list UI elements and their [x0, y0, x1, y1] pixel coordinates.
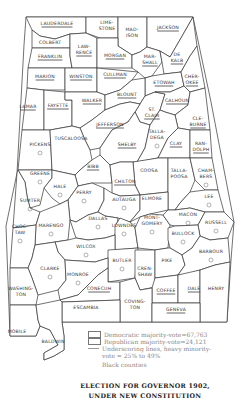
county-label-baldwin: BALDWIN [41, 339, 64, 344]
svg-text:CLAY: CLAY [170, 141, 182, 146]
svg-text:BUTLER: BUTLER [112, 258, 132, 263]
svg-text:BULLOCK: BULLOCK [172, 231, 195, 236]
svg-text:POOSA: POOSA [170, 174, 188, 179]
svg-text:FAYETTE: FAYETTE [48, 103, 69, 108]
svg-text:TAW: TAW [14, 230, 26, 235]
svg-text:TUSCALOOSA: TUSCALOOSA [53, 136, 88, 141]
legend: Democratic majority-vote=67,763 Republic… [88, 331, 243, 368]
map-title: ELECTION FOR GOVERNOR 1902, UNDER NEW CO… [60, 381, 230, 401]
svg-text:DALE: DALE [188, 286, 201, 291]
county-label-henry: HENRY [208, 286, 225, 291]
svg-text:DE: DE [174, 52, 181, 57]
svg-text:WILCOX: WILCOX [76, 244, 95, 249]
svg-text:PERRY: PERRY [76, 190, 92, 195]
svg-text:LEE: LEE [205, 194, 214, 199]
svg-text:TALLA-: TALLA- [148, 129, 166, 134]
svg-text:LAMAR: LAMAR [19, 104, 37, 109]
svg-text:PICKENS: PICKENS [30, 142, 51, 147]
svg-text:BERS: BERS [200, 174, 213, 179]
svg-text:SHAW: SHAW [138, 272, 153, 277]
svg-text:COLBERT: COLBERT [39, 40, 62, 45]
county-henry[interactable] [200, 262, 230, 322]
legend-label: vote = 25% to 49% [102, 352, 160, 359]
svg-text:CLE-: CLE- [192, 116, 203, 121]
svg-text:CLAIR: CLAIR [145, 113, 160, 118]
svg-text:LAW-: LAW- [78, 44, 91, 49]
svg-text:WASHING-: WASHING- [8, 286, 34, 291]
svg-text:MARION: MARION [35, 74, 55, 79]
svg-text:DEGA: DEGA [150, 135, 165, 140]
svg-text:MONT-: MONT- [144, 215, 160, 220]
svg-text:COOSA: COOSA [140, 168, 158, 173]
county-pickens[interactable] [18, 130, 52, 170]
county-escambia[interactable] [62, 300, 120, 322]
legend-label: Republican majority-vote=24,121 [104, 338, 207, 345]
underline-icon [88, 348, 99, 350]
county-label-escambia: ESCAMBIA [73, 305, 99, 310]
svg-text:ST.: ST. [148, 107, 155, 112]
legend-box-icon [88, 338, 101, 345]
svg-text:CLARKE: CLARKE [40, 266, 59, 271]
svg-text:LIME-: LIME- [100, 20, 114, 25]
svg-text:MONROE: MONROE [67, 272, 89, 277]
county-baldwin[interactable] [36, 300, 64, 360]
svg-text:KALB: KALB [171, 58, 184, 63]
county-geneva[interactable] [152, 303, 200, 322]
svg-text:AUTAUGA: AUTAUGA [112, 197, 136, 202]
svg-text:CREN-: CREN- [137, 266, 153, 271]
svg-text:DOLPH: DOLPH [193, 147, 210, 152]
svg-text:PIKE: PIKE [162, 258, 173, 263]
title-line-1: ELECTION FOR GOVERNOR 1902, [60, 381, 230, 391]
svg-text:BALDWIN: BALDWIN [41, 339, 64, 344]
county-label-tuscaloosa: TUSCALOOSA [53, 136, 88, 141]
legend-item-underscoring: Underscoring lines, heavy minority- [88, 345, 243, 352]
legend-label: Underscoring lines, heavy minority- [102, 345, 211, 352]
county-label-talla: TALLA-POOSA [170, 168, 189, 179]
svg-text:BLOUNT: BLOUNT [117, 92, 137, 97]
svg-text:DALLAS: DALLAS [88, 216, 107, 221]
svg-text:CHOC-: CHOC- [12, 224, 28, 229]
svg-text:BARBOUR: BARBOUR [199, 249, 224, 254]
county-label-law: LAW-RENCE [76, 44, 93, 56]
title-line-2: UNDER NEW CONSTITUTION [60, 391, 230, 401]
svg-text:ETOWAH: ETOWAH [153, 80, 174, 85]
svg-text:BURNE: BURNE [189, 122, 206, 127]
county-label-mar: MAR-SHALL [142, 54, 158, 66]
county-label-pike: PIKE [162, 258, 173, 263]
legend-item-democratic: Democratic majority-vote=67,763 [88, 331, 243, 338]
svg-text:CHAM-: CHAM- [198, 168, 215, 173]
svg-text:BIBB: BIBB [87, 164, 99, 169]
county-label-ran: RAN-DOLPH [193, 141, 210, 153]
svg-text:MACON: MACON [179, 212, 197, 217]
svg-text:OKEE: OKEE [185, 80, 198, 85]
svg-text:HALE: HALE [54, 184, 67, 189]
svg-text:SHELBY: SHELBY [118, 142, 137, 147]
county-marion[interactable] [27, 68, 65, 90]
svg-text:WINSTON: WINSTON [69, 74, 93, 79]
svg-text:MAD-: MAD- [125, 27, 138, 32]
svg-text:GREENE: GREENE [30, 171, 50, 176]
legend-item-black-counties: Black counties [88, 361, 243, 368]
county-label-cher: CHER-OKEE [184, 74, 199, 86]
svg-text:MOBILE: MOBILE [8, 329, 27, 334]
svg-text:SHALL: SHALL [142, 60, 158, 65]
svg-text:RENCE: RENCE [76, 50, 93, 55]
svg-text:ESCAMBIA: ESCAMBIA [73, 305, 99, 310]
county-label-mobile: MOBILE [8, 329, 27, 334]
county-butler[interactable] [108, 248, 138, 282]
county-russell[interactable] [198, 212, 234, 240]
svg-text:ISON: ISON [126, 33, 138, 38]
county-coosa[interactable] [133, 158, 168, 195]
svg-text:SUMTER: SUMTER [20, 198, 41, 203]
svg-text:FRANKLIN: FRANKLIN [38, 54, 62, 59]
legend-item-republican: Republican majority-vote=24,121 [88, 338, 243, 345]
svg-text:RUSSELL: RUSSELL [205, 220, 227, 225]
county-label-mad: MAD-ISON [125, 27, 138, 38]
county-label-colbert: COLBERT [39, 40, 62, 45]
svg-text:GENEVA: GENEVA [166, 307, 187, 312]
svg-text:MORGAN: MORGAN [104, 53, 126, 58]
svg-text:STONE: STONE [99, 26, 116, 31]
svg-text:CHER-: CHER- [184, 74, 199, 79]
svg-text:TON: TON [15, 292, 26, 297]
legend-box-icon [88, 331, 101, 338]
